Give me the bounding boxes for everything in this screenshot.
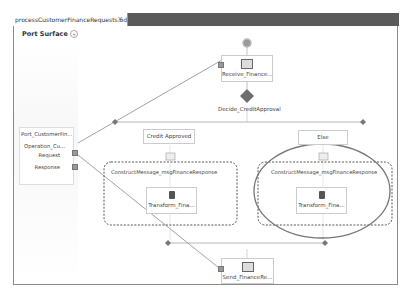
- transform-right[interactable]: Transform_Fina...: [296, 187, 347, 214]
- send-shape-label: Send_FinanceRe...: [222, 274, 273, 280]
- request-label: Request: [38, 152, 60, 158]
- send-shape[interactable]: Send_FinanceRe...: [221, 258, 274, 284]
- transform-right-label: Transform_Fina...: [297, 202, 346, 208]
- transform-icon: [169, 191, 175, 199]
- port-name: Port_CustomerFin...: [21, 131, 72, 137]
- branch-else[interactable]: Else: [298, 130, 348, 145]
- send-port-connector: [218, 266, 224, 272]
- transform-left-label: Transform_Fina...: [147, 202, 196, 208]
- transform-icon: [319, 191, 325, 199]
- receive-message-icon: [241, 59, 253, 69]
- operation-name: Operation_Cu...: [24, 143, 65, 149]
- response-port-connector[interactable]: [72, 164, 78, 170]
- start-shape-icon: [243, 39, 251, 47]
- decide-label[interactable]: Decide_CreditApproval: [218, 106, 281, 112]
- response-label: Response: [35, 164, 60, 170]
- send-message-icon: [242, 262, 254, 272]
- construct-right-label[interactable]: ConstructMessage_msgFinanceResponse: [271, 169, 377, 175]
- branch-credit-approved[interactable]: Credit Approved: [143, 129, 195, 144]
- port-customer-finance[interactable]: Port_CustomerFin... Operation_Cu... Requ…: [19, 127, 74, 185]
- receive-shape[interactable]: Receive_Finance...: [221, 55, 273, 82]
- receive-port-connector: [218, 62, 224, 68]
- transform-left[interactable]: Transform_Fina...: [146, 187, 197, 214]
- decide-diamond-icon: [240, 89, 254, 103]
- construct-left-label[interactable]: ConstructMessage_msgFinanceResponse: [111, 169, 217, 175]
- request-port-connector[interactable]: [72, 150, 78, 156]
- receive-shape-label: Receive_Finance...: [222, 71, 272, 77]
